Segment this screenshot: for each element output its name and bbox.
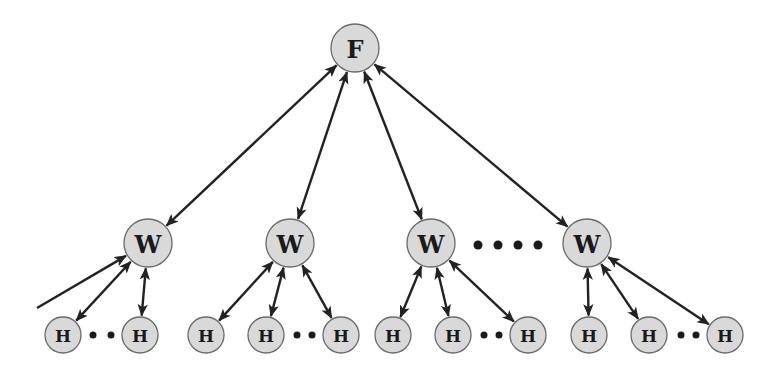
worker-node-w2: W [266, 219, 314, 267]
helper-ellipsis-dot [294, 332, 301, 339]
root-node-label: F [346, 35, 363, 64]
helper-node-h4-2: H [631, 317, 667, 353]
helper-node-label: H [258, 326, 274, 346]
edge-w3-h3-1 [400, 267, 421, 317]
edge-w1-h1-2 [142, 268, 146, 315]
helper-node-label: H [333, 326, 349, 346]
diagram-canvas: FWWWWHHHHHHHHHHH [0, 0, 776, 381]
helper-node-h1-2: H [122, 317, 158, 353]
root-node-f: F [331, 24, 379, 72]
edge-w2-h2-3 [302, 265, 331, 318]
helper-node-h2-1: H [188, 317, 224, 353]
edge-w4-h4-3 [608, 257, 709, 324]
edge-w4-h4-1 [588, 268, 589, 315]
helper-node-h2-3: H [323, 317, 359, 353]
edge-w3-h3-2 [437, 268, 449, 316]
helper-node-h4-1: H [571, 317, 607, 353]
edge-w2-h2-1 [219, 262, 273, 321]
helper-ellipsis-dot [496, 332, 503, 339]
helper-node-label: H [198, 326, 214, 346]
edge-w3-h3-3 [450, 261, 514, 322]
worker-node-w3: W [407, 219, 455, 267]
worker-ellipsis-dot [494, 241, 503, 250]
helper-node-label: H [445, 326, 461, 346]
edge-w2-h2-2 [271, 268, 284, 316]
worker-node-label: W [417, 230, 446, 259]
helper-node-label: H [641, 326, 657, 346]
helper-ellipsis-dot [309, 332, 316, 339]
edge-f-w3 [364, 72, 421, 219]
helper-node-label: H [581, 326, 597, 346]
helper-ellipsis-dot [90, 332, 97, 339]
worker-ellipsis-dot [534, 241, 543, 250]
helper-node-label: H [717, 326, 733, 346]
helper-node-label: H [132, 326, 148, 346]
helper-node-h3-2: H [435, 317, 471, 353]
helper-node-label: H [385, 326, 401, 346]
worker-ellipsis-dot [474, 241, 483, 250]
worker-node-w4: W [563, 219, 611, 267]
helper-ellipsis-dot [678, 332, 685, 339]
nodes-layer: FWWWWHHHHHHHHHHH [45, 24, 743, 353]
edge-f-w4 [375, 64, 568, 226]
worker-ellipsis-dot [514, 241, 523, 250]
helper-node-h3-3: H [510, 317, 546, 353]
helper-node-h4-3: H [707, 317, 743, 353]
edge-f-w1 [167, 65, 337, 225]
helper-ellipsis-dot [693, 332, 700, 339]
helper-ellipsis-dot [108, 332, 115, 339]
edges-layer [37, 64, 709, 324]
worker-node-label: W [276, 230, 305, 259]
helper-ellipsis-dot [481, 332, 488, 339]
helper-node-h1-1: H [45, 317, 81, 353]
worker-node-w1: W [124, 219, 172, 267]
edge-w1-h1-1 [76, 262, 130, 321]
helper-node-h2-2: H [248, 317, 284, 353]
helper-node-label: H [55, 326, 71, 346]
worker-node-label: W [573, 230, 602, 259]
helper-node-h3-1: H [375, 317, 411, 353]
helper-node-label: H [520, 326, 536, 346]
worker-node-label: W [134, 230, 163, 259]
